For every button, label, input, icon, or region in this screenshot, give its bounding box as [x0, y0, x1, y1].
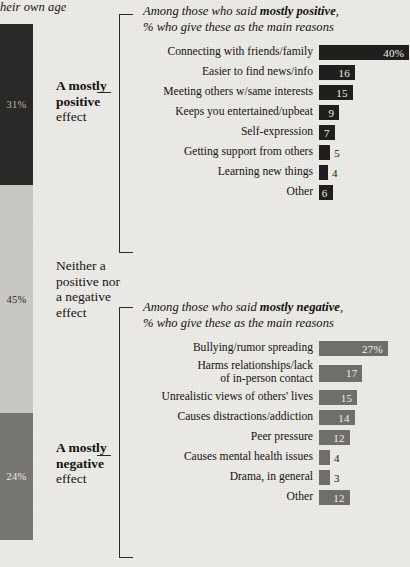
reason-value: 15	[341, 392, 357, 404]
reason-bar: 12	[319, 430, 350, 445]
stack-label-neu-line4: effect	[56, 305, 86, 320]
reason-value: 40%	[383, 47, 409, 59]
panel-negative-title-bold: mostly negative	[260, 300, 340, 314]
reason-label: Causes mental health issues	[141, 451, 319, 464]
reason-value: 17	[346, 367, 362, 379]
reason-label: Causes distractions/addiction	[141, 411, 319, 424]
reason-row: Causes distractions/addiction14	[141, 409, 410, 426]
reason-bar: 15	[319, 390, 357, 405]
panel-negative-title-suffix: ,	[340, 300, 343, 314]
reason-label: Bullying/rumor spreading	[141, 342, 319, 355]
reason-bar: 6	[319, 185, 333, 200]
stack-label-neg-line1: A mostly	[56, 440, 107, 455]
reason-label: Meeting others w/same interests	[141, 86, 319, 99]
panel-positive-title-prefix: Among those who said	[143, 4, 260, 18]
reason-label: Other	[141, 186, 319, 199]
reason-label: Drama, in general	[141, 471, 319, 484]
reason-bar: 15	[319, 85, 353, 100]
bracket-positive-arm-bottom	[119, 252, 133, 253]
reason-row: Getting support from others5	[141, 144, 410, 161]
reason-bar: 9	[319, 105, 339, 120]
reason-bar: 40%	[319, 45, 409, 60]
reason-row: Other6	[141, 184, 410, 201]
stack-label-neu-line2: positive nor	[56, 274, 120, 289]
reason-label: Learning new things	[141, 166, 319, 179]
stack-segment-mostly-positive: 31%	[0, 24, 33, 185]
panel-positive-title: Among those who said mostly positive, % …	[143, 4, 410, 35]
reason-value: 7	[324, 127, 335, 139]
top-note: heir own age	[0, 0, 150, 14]
reason-row: Peer pressure12	[141, 429, 410, 446]
reason-label: Getting support from others	[141, 146, 319, 159]
reason-value: 6	[322, 187, 333, 199]
bracket-negative-arm-top	[119, 307, 133, 308]
stack-segment-mostly-negative: 24%	[0, 413, 33, 540]
reason-label-line1: Harms relationships/lack	[197, 359, 313, 372]
reason-value: 14	[338, 412, 354, 424]
reason-value: 15	[336, 87, 352, 99]
panel-positive-title-suffix: ,	[336, 4, 339, 18]
reason-row: Connecting with friends/family40%	[141, 44, 410, 61]
stacked-bar: 31% 45% 24%	[0, 24, 33, 540]
reason-label: Connecting with friends/family	[141, 46, 319, 59]
reason-bar	[319, 450, 330, 465]
stack-label-mostly-positive: A mostly positive effect	[56, 78, 107, 125]
panel-negative-title-prefix: Among those who said	[143, 300, 260, 314]
reason-row: Unrealistic views of others' lives15	[141, 389, 410, 406]
reason-value: 5	[330, 147, 340, 159]
negative-reason-rows: Bullying/rumor spreading27%Harms relatio…	[141, 340, 410, 506]
reason-row: Bullying/rumor spreading27%	[141, 340, 410, 357]
reason-bar: 7	[319, 125, 335, 140]
reason-value: 4	[328, 167, 338, 179]
reason-row: Drama, in general3	[141, 469, 410, 486]
reason-value: 12	[333, 492, 349, 504]
reason-label: Keeps you entertained/upbeat	[141, 106, 319, 119]
reason-value: 9	[329, 107, 340, 119]
reason-row: Other12	[141, 489, 410, 506]
reason-value: 16	[339, 67, 355, 79]
bracket-negative	[111, 307, 135, 558]
stack-label-neu-line3: a negative	[56, 289, 111, 304]
reason-row: Causes mental health issues4	[141, 449, 410, 466]
reason-bar	[319, 165, 328, 180]
reason-bar	[319, 470, 330, 485]
reason-label: Peer pressure	[141, 431, 319, 444]
bracket-positive	[111, 14, 135, 253]
stack-value-neither: 45%	[7, 294, 27, 305]
stack-label-mostly-negative: A mostly negative effect	[56, 440, 107, 487]
bracket-negative-stub	[97, 455, 111, 456]
reason-bar: 12	[319, 490, 350, 505]
reason-bar: 16	[319, 65, 355, 80]
reason-bar: 27%	[319, 341, 388, 356]
bracket-negative-arm-bottom	[119, 557, 133, 558]
stack-value-mostly-positive: 31%	[7, 99, 27, 110]
reason-row: Easier to find news/info16	[141, 64, 410, 81]
reason-value: 12	[333, 432, 349, 444]
bracket-positive-stub	[97, 92, 111, 93]
reason-label: Easier to find news/info	[141, 66, 319, 79]
reason-row: Learning new things4	[141, 164, 410, 181]
reason-label: Harms relationships/lackof in-person con…	[141, 360, 319, 385]
positive-reason-rows: Connecting with friends/family40%Easier …	[141, 44, 410, 201]
reason-value: 3	[330, 472, 340, 484]
stack-label-neg-line2: negative	[56, 456, 104, 471]
bracket-positive-arm-top	[119, 14, 133, 15]
stack-label-pos-line2: positive	[56, 94, 100, 109]
bracket-negative-spine	[119, 307, 120, 558]
reason-bar: 17	[319, 365, 362, 382]
panel-positive-title-bold: mostly positive	[260, 4, 336, 18]
bracket-positive-spine	[119, 14, 120, 253]
panel-negative-title: Among those who said mostly negative, % …	[143, 300, 410, 331]
reason-label: Other	[141, 491, 319, 504]
stack-label-neg-line3: effect	[56, 471, 86, 486]
reason-label: Unrealistic views of others' lives	[141, 391, 319, 404]
reason-label: Self-expression	[141, 126, 319, 139]
reason-value: 4	[330, 452, 340, 464]
reason-row: Self-expression7	[141, 124, 410, 141]
reason-label-line2: of in-person contact	[220, 372, 313, 385]
reason-row: Meeting others w/same interests15	[141, 84, 410, 101]
reason-row: Harms relationships/lackof in-person con…	[141, 360, 410, 386]
stack-label-pos-line1: A mostly	[56, 78, 107, 93]
reason-row: Keeps you entertained/upbeat9	[141, 104, 410, 121]
reason-bar: 14	[319, 410, 355, 425]
